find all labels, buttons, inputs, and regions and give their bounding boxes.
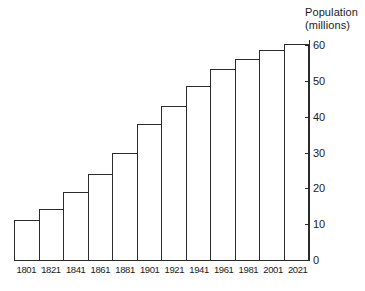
y-axis-tick-label: 10 (313, 219, 325, 230)
y-axis-tick-label: 0 (313, 255, 319, 266)
bar (210, 69, 236, 261)
y-axis-tick (305, 45, 310, 46)
bar (259, 50, 285, 261)
bar (186, 86, 212, 261)
x-axis-tick-label: 1981 (236, 264, 261, 276)
y-axis-tick (305, 224, 310, 225)
y-axis-tick (305, 117, 310, 118)
x-axis-tick-label: 1841 (63, 264, 88, 276)
y-axis-tick (305, 260, 310, 261)
y-axis-tick-label: 20 (313, 183, 325, 194)
bar (137, 124, 163, 261)
x-axis-tick-label: 1881 (113, 264, 138, 276)
x-axis-labels: 1801'18211841186118811901192119411961198… (14, 264, 310, 276)
y-axis-tick (305, 153, 310, 154)
y-axis-tick (305, 81, 310, 82)
y-axis-tick-label: 30 (313, 147, 325, 158)
y-axis-title-line-2: (millions) (305, 19, 358, 32)
bar (39, 209, 65, 261)
x-axis-tick-label: 1861 (88, 264, 113, 276)
bar (88, 174, 114, 261)
y-axis-tick (305, 188, 310, 189)
label-prefix-mark: ' (41, 266, 42, 273)
x-axis-tick-label: 1941 (187, 264, 212, 276)
y-axis-tick-label: 40 (313, 111, 325, 122)
y-axis-line (309, 40, 310, 261)
bar (235, 59, 261, 261)
y-axis-tick-label: 60 (313, 40, 325, 51)
plot-area (14, 38, 309, 261)
x-axis-tick-label: '1821 (39, 264, 64, 276)
x-axis-tick-label: 1901 (137, 264, 162, 276)
y-axis-title: Population (millions) (305, 6, 358, 32)
x-axis-tick-label: 2021 (285, 264, 310, 276)
bar (14, 220, 40, 261)
x-axis-tick-label: 2001 (261, 264, 286, 276)
x-axis-line (14, 260, 310, 261)
bar (112, 153, 138, 261)
bar-series (14, 38, 309, 261)
x-axis-tick-label: 1961 (211, 264, 236, 276)
bar (161, 106, 187, 261)
population-bar-chart: Population (millions) 0102030405060 1801… (0, 0, 365, 291)
y-axis-title-line-1: Population (305, 6, 358, 19)
bar (63, 192, 89, 261)
y-axis-tick-label: 50 (313, 75, 325, 86)
x-axis-tick-label: 1801 (14, 264, 39, 276)
x-axis-tick-label: 1921 (162, 264, 187, 276)
